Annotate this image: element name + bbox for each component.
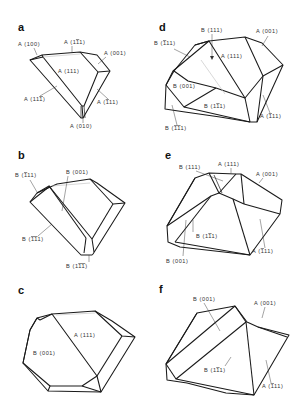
face-label-d-b001: B (001) [173,83,196,89]
face-label-b-b001: B (001) [66,169,89,175]
face-label-f-a-111: A (111) [262,383,283,389]
face-label-f-a001: A (001) [254,300,276,306]
panel-letter-f: f [159,283,163,295]
face-label-e-b111: B (111) [179,164,201,170]
face-label-d-b-111: B (111) [154,40,176,46]
face-label-b-b1-1-1: B (111) [66,263,88,269]
face-label-d-a001: A (001) [256,28,278,34]
face-label-e-b001: B (001) [166,258,189,264]
crystal-d-drawing [165,37,283,122]
face-label-b-b-1-11: B (111) [22,236,44,242]
panel-f: f B (001) A (001) B (111) A (111) [159,283,289,395]
face-label-f-b1-11: B (111) [204,367,226,373]
face-label-e-b1-11: B (111) [196,233,218,239]
panel-c: c A (111) B (001) [18,284,135,392]
panel-letter-b: b [18,149,25,161]
face-label-a11-1: A (111) [24,96,45,102]
face-label-e-a001: A (001) [256,171,278,177]
face-label-d-b1-11: B (111) [204,103,226,109]
face-label-e-a111: A (111) [218,161,239,167]
face-label-d-a-111: A (111) [260,113,281,119]
crystal-a-drawing [30,52,110,118]
panel-b: b B (111) B (001) B (111) B (111) [15,149,125,269]
face-label-a111: A (111) [58,68,79,74]
panel-letter-e: e [165,149,171,161]
face-label-f-b001: B (001) [193,296,216,302]
face-label-c-a111: A (111) [74,332,95,338]
face-label-d-a111: A (111) [221,53,242,59]
face-label-a-111: A (111) [97,99,118,105]
face-label-a100: A (100) [18,41,40,47]
face-label-a010: A (010) [70,123,92,129]
crystal-morphology-figure: a A (100) A (111) A (001) A (111) A (111… [0,0,308,418]
panel-d: d B (111) A (001) B (111) A (111) B (001… [154,21,283,131]
panel-letter-c: c [18,284,24,296]
panel-e: e B (111) A (111) A (001) B (111) A (111… [165,149,282,264]
face-label-a001: A (001) [104,50,126,56]
face-label-d-b-1-11: B (111) [165,125,187,131]
face-label-e-a-111: A (111) [252,248,273,254]
face-label-c-b001: B (001) [33,350,56,356]
panel-letter-d: d [159,21,166,33]
panel-letter-a: a [18,21,25,33]
face-label-a1-11: A (111) [64,39,85,45]
panel-a: a A (100) A (111) A (001) A (111) A (111… [18,21,126,129]
face-label-b-b-111: B (111) [15,172,37,178]
crystal-b-drawing [30,179,125,255]
face-label-d-b111: B (111) [201,27,223,33]
